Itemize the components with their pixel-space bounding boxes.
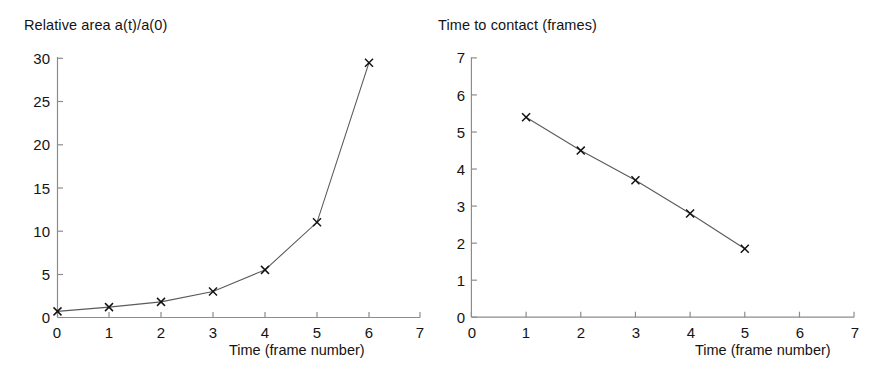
x-tick-label-right: 6	[796, 324, 804, 341]
x-tickmarks-right	[471, 312, 854, 317]
chart-panel-right: Time to contact (frames)	[435, 0, 870, 377]
y-tick-label-left: 15	[14, 180, 50, 197]
data-series-line-right	[526, 117, 745, 249]
x-axis-label-left: Time (frame number)	[229, 342, 365, 358]
y-tick-label-right: 5	[435, 124, 465, 141]
data-markers-right	[522, 113, 749, 253]
x-tick-label-left: 3	[209, 324, 217, 341]
y-tick-label-right: 7	[435, 49, 465, 66]
chart-panel-left: Relative area a(t)/a(0)	[0, 0, 435, 377]
data-point-marker	[741, 245, 749, 253]
data-point-marker	[686, 210, 694, 218]
data-point-marker	[577, 147, 585, 155]
data-markers-left	[54, 59, 374, 316]
x-tick-label-right: 0	[468, 324, 476, 341]
x-tick-label-right: 5	[741, 324, 749, 341]
x-tick-label-right: 3	[632, 324, 640, 341]
y-tick-label-left: 5	[14, 266, 50, 283]
data-point-marker	[261, 266, 269, 274]
y-tick-label-left: 0	[14, 309, 50, 326]
x-tick-label-right: 7	[851, 324, 859, 341]
data-point-marker	[522, 113, 530, 121]
x-tick-label-left: 5	[313, 324, 321, 341]
axes-left	[58, 57, 421, 318]
y-tick-label-right: 1	[435, 272, 465, 289]
y-tick-label-right: 3	[435, 198, 465, 215]
figure-container: Relative area a(t)/a(0)	[0, 0, 871, 377]
x-tick-label-right: 1	[522, 324, 530, 341]
y-tick-label-left: 10	[14, 223, 50, 240]
y-tick-label-left: 30	[14, 50, 50, 67]
axes-right	[471, 57, 854, 317]
y-tick-label-left: 20	[14, 136, 50, 153]
x-axis-label-right: Time (frame number)	[695, 342, 831, 358]
x-tick-label-left: 2	[157, 324, 165, 341]
x-tick-label-left: 6	[365, 324, 373, 341]
plot-area-left	[0, 0, 435, 377]
y-tick-label-right: 4	[435, 161, 465, 178]
y-tick-label-left: 25	[14, 93, 50, 110]
data-point-marker	[631, 176, 639, 184]
x-tickmarks-left	[58, 312, 421, 318]
x-tick-label-right: 2	[577, 324, 585, 341]
x-tick-label-left: 4	[261, 324, 269, 341]
y-tickmarks-right	[471, 58, 476, 317]
x-tick-label-right: 4	[687, 324, 695, 341]
y-tick-label-right: 6	[435, 87, 465, 104]
plot-area-right	[435, 0, 870, 377]
data-point-marker	[313, 218, 321, 226]
data-series-line-left	[58, 63, 370, 312]
y-tick-label-right: 0	[435, 309, 465, 326]
y-tick-label-right: 2	[435, 235, 465, 252]
x-tick-label-left: 0	[53, 324, 61, 341]
data-point-marker	[365, 59, 373, 67]
y-tickmarks-left	[58, 58, 64, 317]
x-tick-label-left: 7	[416, 324, 424, 341]
x-tick-label-left: 1	[105, 324, 113, 341]
